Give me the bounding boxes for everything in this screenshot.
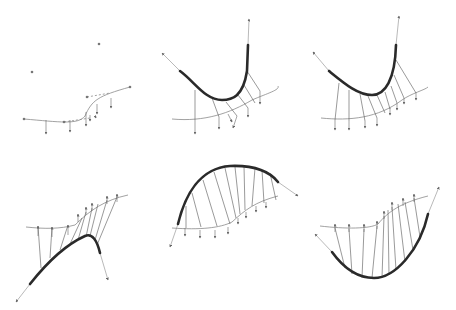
target-curve [320,196,428,228]
projection-line [405,202,413,250]
projection-line [95,200,107,240]
figure [0,0,456,310]
projection-line [225,168,236,218]
projection-line [372,226,377,278]
tangent-arrow [396,16,399,45]
tangent-arrow [313,52,329,71]
projection-line [377,95,385,113]
projection-line [385,92,390,109]
control-point [23,118,26,121]
target-curve [26,195,128,228]
projection-line [388,210,389,275]
projection-line [97,197,117,245]
projection-line [398,204,405,262]
projection-line [392,207,396,270]
projection-line [238,95,248,108]
target-curve [172,86,278,120]
control-point [129,86,132,89]
projection-line [414,198,420,237]
panel-e [170,166,298,247]
tangent-arrow [315,234,332,252]
projection-line [247,71,260,91]
tangent-arrow [170,224,178,247]
projection-line [396,60,416,93]
projection-line [226,102,237,116]
normal-arrow-icon [228,114,232,122]
source-curve [332,214,428,278]
control-point [31,71,34,74]
normal-arrow-icon [233,116,237,128]
projection-line [252,168,255,206]
panel-c [313,16,428,130]
panel-b [162,19,278,134]
projection-line [192,193,201,227]
tangent-arrow [162,53,180,71]
projection-line [349,229,352,274]
control-point [63,121,66,124]
tangent-arrow [100,253,108,280]
source-curve [180,45,248,100]
projection-line [244,85,255,103]
diagram-canvas [0,0,456,310]
tangent-arrow [16,284,30,302]
projection-line [244,166,245,210]
target-curve [172,196,278,229]
panel-a [23,43,132,134]
tangent-arrow [278,182,298,196]
projection-line [235,167,240,214]
normal-arrow-icon [95,116,96,118]
target-curve [24,87,130,122]
tangent-arrow [428,187,439,214]
projection-line [382,216,384,278]
projection-line [203,180,217,226]
projection-line [362,229,364,278]
panel-f [315,187,439,278]
projection-line [38,226,41,268]
source-curve [329,45,396,95]
source-curve [178,166,278,224]
control-point [86,96,89,99]
projection-line [394,75,404,98]
projection-line [391,86,397,103]
projection-line [335,83,339,120]
tangent-arrow [248,19,249,45]
control-point [98,43,101,46]
projection-line [262,170,264,203]
panel-d [16,194,128,302]
